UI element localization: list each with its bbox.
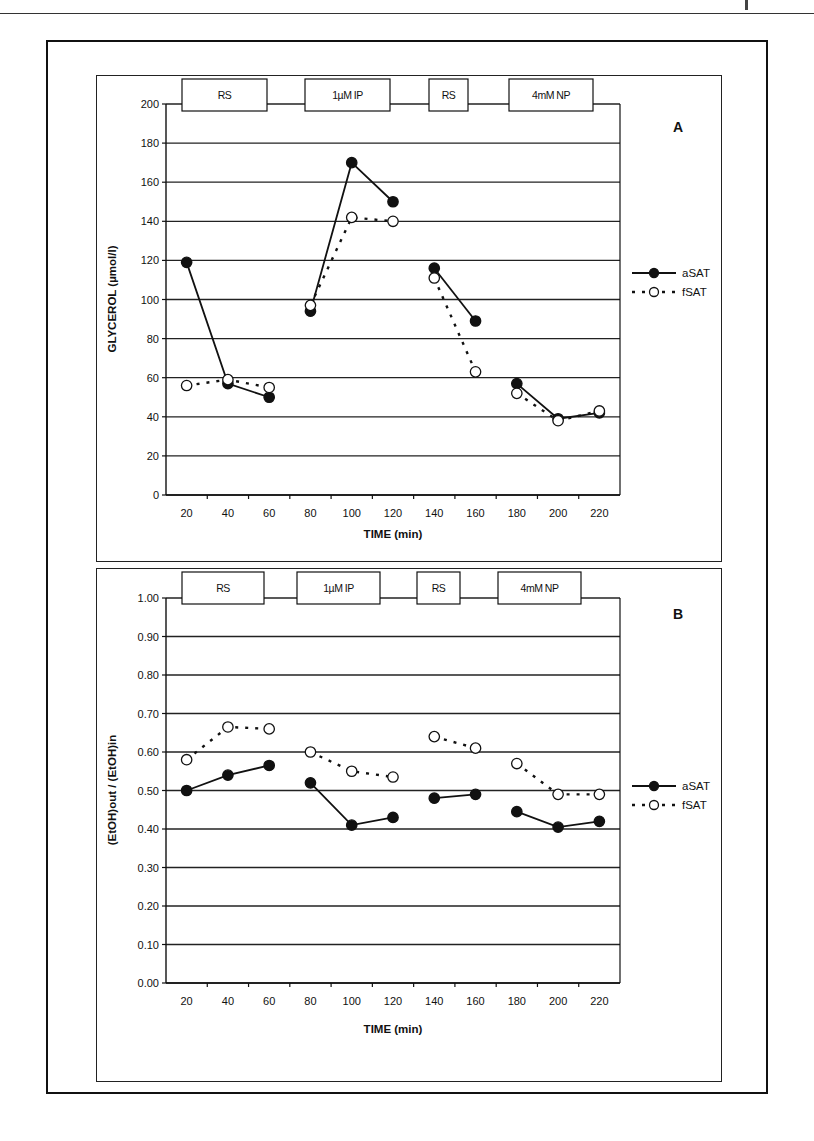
y-tick-label: 100 xyxy=(141,294,159,306)
filled-circle-marker xyxy=(388,812,398,822)
x-tick-label: 40 xyxy=(222,995,234,1007)
x-tick-label: 20 xyxy=(181,507,193,519)
x-tick-label: 160 xyxy=(466,507,484,519)
x-tick-label: 220 xyxy=(590,995,608,1007)
filled-circle-marker xyxy=(553,822,563,832)
filled-circle-marker xyxy=(347,157,357,167)
aSAT-line xyxy=(434,794,475,798)
open-circle-marker xyxy=(470,743,480,753)
y-axis-title: GLYCEROL (µmol/l) xyxy=(106,245,118,352)
y-tick-label: 20 xyxy=(147,450,159,462)
x-axis-title: TIME (min) xyxy=(364,1023,423,1035)
phase-label: RS xyxy=(218,89,232,101)
x-tick-label: 100 xyxy=(343,995,361,1007)
y-tick-label: 0.10 xyxy=(138,939,159,951)
x-tick-label: 180 xyxy=(508,995,526,1007)
open-circle-marker xyxy=(181,755,191,765)
filled-circle-marker xyxy=(181,785,191,795)
open-circle-marker xyxy=(388,216,398,226)
y-tick-label: 0.50 xyxy=(138,785,159,797)
filled-circle-marker xyxy=(512,378,522,388)
ethanol-ratio-chart: 0.000.100.200.300.400.500.600.700.800.90… xyxy=(97,569,720,1080)
filled-circle-marker xyxy=(305,778,315,788)
legend-open-circle-icon xyxy=(650,801,659,810)
open-circle-marker xyxy=(347,212,357,222)
open-circle-marker xyxy=(594,789,604,799)
phase-label: 1µM IP xyxy=(332,89,363,101)
open-circle-marker xyxy=(594,406,604,416)
y-tick-label: 0.30 xyxy=(138,862,159,874)
y-tick-label: 60 xyxy=(147,372,159,384)
x-tick-label: 120 xyxy=(384,507,402,519)
y-tick-label: 180 xyxy=(141,137,159,149)
open-circle-marker xyxy=(223,722,233,732)
phase-label: RS xyxy=(442,89,456,101)
open-circle-marker xyxy=(429,731,439,741)
open-circle-marker xyxy=(264,382,274,392)
fSAT-line xyxy=(310,217,393,305)
filled-circle-marker xyxy=(223,770,233,780)
open-circle-marker xyxy=(264,724,274,734)
y-tick-label: 80 xyxy=(147,333,159,345)
y-tick-label: 120 xyxy=(141,254,159,266)
legend-filled-circle-icon xyxy=(650,782,659,791)
aSAT-line xyxy=(434,268,475,321)
x-tick-label: 220 xyxy=(590,507,608,519)
open-circle-marker xyxy=(181,380,191,390)
open-circle-marker xyxy=(512,758,522,768)
filled-circle-marker xyxy=(470,789,480,799)
x-tick-label: 120 xyxy=(384,995,402,1007)
x-tick-label: 200 xyxy=(549,995,567,1007)
legend-filled-circle-icon xyxy=(650,269,659,278)
y-tick-label: 0.60 xyxy=(138,746,159,758)
open-circle-marker xyxy=(223,374,233,384)
open-circle-marker xyxy=(388,772,398,782)
filled-circle-marker xyxy=(264,392,274,402)
filled-circle-marker xyxy=(470,316,480,326)
y-tick-label: 0 xyxy=(153,489,159,501)
open-circle-marker xyxy=(305,747,315,757)
filled-circle-marker xyxy=(181,257,191,267)
open-circle-marker xyxy=(429,273,439,283)
y-tick-label: 0.20 xyxy=(138,900,159,912)
open-circle-marker xyxy=(347,766,357,776)
y-tick-label: 40 xyxy=(147,411,159,423)
x-tick-label: 160 xyxy=(466,995,484,1007)
open-circle-marker xyxy=(553,416,563,426)
aSAT-line xyxy=(310,163,393,312)
y-tick-label: 140 xyxy=(141,215,159,227)
y-tick-label: 160 xyxy=(141,176,159,188)
filled-circle-marker xyxy=(512,806,522,816)
x-tick-label: 80 xyxy=(304,995,316,1007)
phase-label: RS xyxy=(432,582,446,594)
x-tick-label: 20 xyxy=(181,995,193,1007)
x-tick-label: 60 xyxy=(263,507,275,519)
panel-label: B xyxy=(673,606,683,622)
aSAT-line xyxy=(310,783,393,825)
legend-label: fSAT xyxy=(682,799,707,811)
phase-label: 4mM NP xyxy=(521,582,559,594)
y-tick-label: 0.40 xyxy=(138,823,159,835)
x-tick-label: 200 xyxy=(549,507,567,519)
chart-panel-a: 0204060801001201401601802002040608010012… xyxy=(96,75,722,562)
y-tick-label: 200 xyxy=(141,98,159,110)
x-tick-label: 40 xyxy=(222,507,234,519)
y-tick-label: 0.90 xyxy=(138,631,159,643)
x-tick-label: 100 xyxy=(343,507,361,519)
x-tick-label: 60 xyxy=(263,995,275,1007)
open-circle-marker xyxy=(470,367,480,377)
y-tick-label: 1.00 xyxy=(138,592,159,604)
page-corner-mark xyxy=(745,0,748,10)
fSAT-line xyxy=(434,278,475,372)
x-tick-label: 140 xyxy=(425,507,443,519)
glycerol-chart: 0204060801001201401601802002040608010012… xyxy=(97,76,720,560)
open-circle-marker xyxy=(553,789,563,799)
panel-label: A xyxy=(673,119,683,135)
x-tick-label: 180 xyxy=(508,507,526,519)
legend-label: fSAT xyxy=(682,286,707,298)
page-top-rule xyxy=(0,13,814,14)
y-axis-title: (EtOH)out / (EtOH)in xyxy=(106,735,118,846)
filled-circle-marker xyxy=(429,793,439,803)
phase-label: 4mM NP xyxy=(532,89,570,101)
open-circle-marker xyxy=(512,388,522,398)
